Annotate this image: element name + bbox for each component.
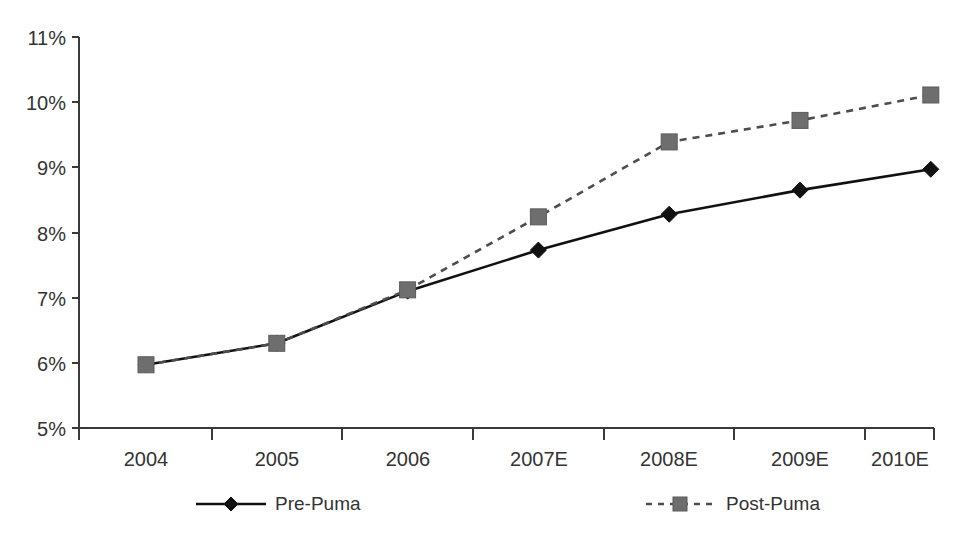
legend-label: Post-Puma — [726, 493, 820, 514]
diamond-marker-icon — [530, 242, 546, 258]
x-tick-label: 2007E — [510, 448, 568, 470]
line-chart: 11% 10% 9% 8% 7% 6% 5% — [0, 0, 970, 536]
legend-item-pre-puma[interactable]: Pre-Puma — [196, 493, 361, 514]
diamond-marker-icon — [224, 497, 238, 511]
square-marker-icon — [269, 335, 285, 351]
x-axis-group: 2004 2005 2006 2007E 2008E 2009E 2010E — [79, 428, 934, 470]
series-line-pre-puma — [146, 169, 931, 365]
y-axis-group: 11% 10% 9% 8% 7% 6% 5% — [26, 27, 79, 440]
y-tick-label: 8% — [37, 223, 66, 245]
series-line-post-puma — [146, 95, 931, 365]
diamond-marker-icon — [923, 161, 939, 177]
legend: Pre-Puma Post-Puma — [196, 493, 820, 514]
square-marker-icon — [138, 357, 154, 373]
y-tick-label: 9% — [37, 157, 66, 179]
chart-title — [0, 0, 970, 6]
diamond-marker-icon — [661, 206, 677, 222]
y-tick-label: 5% — [37, 418, 66, 440]
x-tick-label: 2005 — [255, 448, 300, 470]
square-marker-icon — [673, 497, 687, 511]
y-tick-label: 7% — [37, 288, 66, 310]
x-tick-label: 2009E — [771, 448, 829, 470]
square-marker-icon — [661, 134, 677, 150]
square-marker-icon — [530, 209, 546, 225]
y-tick-label: 10% — [26, 92, 66, 114]
x-tick-label: 2008E — [640, 448, 698, 470]
y-tick-label: 6% — [37, 353, 66, 375]
legend-item-post-puma[interactable]: Post-Puma — [646, 493, 820, 514]
chart-canvas: 11% 10% 9% 8% 7% 6% 5% — [0, 0, 970, 536]
plot-area — [138, 87, 939, 373]
square-marker-icon — [400, 282, 416, 298]
y-tick-label: 11% — [27, 27, 66, 49]
square-marker-icon — [923, 87, 939, 103]
legend-label: Pre-Puma — [275, 493, 361, 514]
x-tick-label: 2010E — [871, 448, 929, 470]
x-tick-label: 2004 — [124, 448, 169, 470]
square-marker-icon — [792, 112, 808, 128]
diamond-marker-icon — [792, 182, 808, 198]
x-tick-label: 2006 — [386, 448, 431, 470]
